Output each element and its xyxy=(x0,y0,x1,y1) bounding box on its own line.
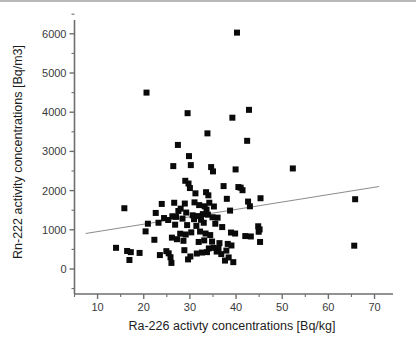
scatter-point xyxy=(201,237,207,243)
scatter-point xyxy=(234,30,240,36)
x-tick-label: 20 xyxy=(138,301,150,313)
y-tick-label: 2000 xyxy=(42,185,66,197)
scatter-point xyxy=(246,107,252,113)
scatter-point xyxy=(191,216,197,222)
scatter-point xyxy=(137,250,143,256)
scatter-point xyxy=(248,233,254,239)
x-tick-label: 60 xyxy=(322,301,334,313)
chart-canvas: 010002000300040005000600010203040506070 … xyxy=(0,2,416,338)
scatter-point xyxy=(196,239,202,245)
x-axis-title: Ra-226 activty concentrations [Bq/kg] xyxy=(128,319,335,333)
scatter-point xyxy=(216,246,222,252)
x-tick-label: 70 xyxy=(368,301,380,313)
scatter-point xyxy=(153,210,159,216)
scatter-point xyxy=(207,232,213,238)
scatter-point xyxy=(128,249,134,255)
scatter-point xyxy=(290,165,296,171)
scatter-point xyxy=(157,252,163,258)
y-tick-label: 0 xyxy=(60,263,66,275)
scatter-point xyxy=(184,222,190,228)
x-tick-label: 10 xyxy=(91,301,103,313)
y-tick-label: 3000 xyxy=(42,145,66,157)
scatter-point xyxy=(196,202,202,208)
scatter-point xyxy=(204,130,210,136)
scatter-point xyxy=(175,142,181,148)
y-tick-label: 6000 xyxy=(42,28,66,40)
scatter-point xyxy=(183,232,189,238)
scatter-point xyxy=(126,257,132,263)
scatter-point xyxy=(212,221,218,227)
scatter-point xyxy=(145,221,151,227)
scatter-plot-figure: 010002000300040005000600010203040506070 … xyxy=(0,0,416,338)
scatter-point xyxy=(177,231,183,237)
scatter-point xyxy=(201,220,207,226)
scatter-point xyxy=(185,110,191,116)
scatter-point xyxy=(180,216,186,222)
scatter-point xyxy=(229,115,235,121)
scatter-point xyxy=(192,190,198,196)
scatter-point xyxy=(230,259,236,265)
scatter-point xyxy=(224,196,230,202)
scatter-point xyxy=(181,247,187,253)
scatter-point xyxy=(223,248,229,254)
scatter-point xyxy=(144,90,150,96)
scatter-point xyxy=(197,229,203,235)
data-points xyxy=(113,30,358,266)
scatter-point xyxy=(174,236,180,242)
x-tick-label: 40 xyxy=(230,301,242,313)
y-tick-label: 1000 xyxy=(42,224,66,236)
scatter-point xyxy=(351,243,357,249)
y-tick-label: 5000 xyxy=(42,67,66,79)
scatter-point xyxy=(151,237,157,243)
scatter-point xyxy=(180,238,186,244)
scatter-point xyxy=(171,200,177,206)
scatter-point xyxy=(257,239,263,245)
scatter-point xyxy=(172,222,178,228)
scatter-point xyxy=(168,260,174,266)
y-tick-label: 4000 xyxy=(42,106,66,118)
scatter-point xyxy=(187,253,193,259)
scatter-point xyxy=(205,192,211,198)
scatter-point xyxy=(175,208,181,214)
scatter-point xyxy=(188,229,194,235)
scatter-point xyxy=(168,254,174,260)
scatter-point xyxy=(210,168,216,174)
scatter-point xyxy=(244,138,250,144)
scatter-point xyxy=(165,217,171,223)
x-tick-label: 50 xyxy=(276,301,288,313)
scatter-point xyxy=(247,203,253,209)
scatter-point xyxy=(258,195,264,201)
scatter-point xyxy=(186,153,192,159)
scatter-point xyxy=(227,208,233,214)
scatter-point xyxy=(113,245,119,251)
scatter-point xyxy=(170,163,176,169)
scatter-point xyxy=(193,223,199,229)
scatter-point xyxy=(143,228,149,234)
scatter-point xyxy=(188,162,194,168)
scatter-point xyxy=(121,205,127,211)
scatter-point xyxy=(221,183,227,189)
scatter-point xyxy=(209,239,215,245)
axes xyxy=(75,20,394,294)
scatter-point xyxy=(183,210,189,216)
scatter-point xyxy=(257,226,263,232)
scatter-point xyxy=(187,185,193,191)
scatter-point xyxy=(240,187,246,193)
scatter-point xyxy=(173,214,179,220)
scatter-point xyxy=(232,231,238,237)
scatter-point xyxy=(211,203,217,209)
y-axis-title: Rn-222 activity concentrations [Bq/m3] xyxy=(11,45,25,259)
scatter-point xyxy=(233,166,239,172)
scatter-point xyxy=(219,224,225,230)
x-tick-label: 30 xyxy=(184,301,196,313)
scatter-point xyxy=(242,233,248,239)
scatter-point xyxy=(159,201,165,207)
scatter-point xyxy=(156,220,162,226)
scatter-point xyxy=(215,215,221,221)
scatter-point xyxy=(216,240,222,246)
scatter-point xyxy=(352,196,358,202)
